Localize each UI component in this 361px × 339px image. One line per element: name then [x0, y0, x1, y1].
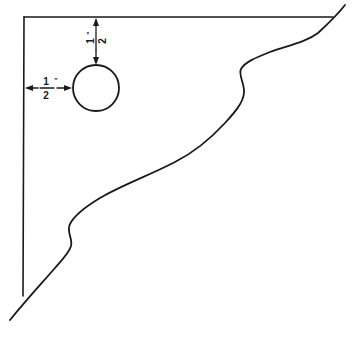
arrow-left-icon: [25, 85, 33, 91]
horizontal-dimension: 1 2 ": [25, 76, 72, 101]
arrow-down-icon: [93, 57, 99, 65]
left-edge: [23, 17, 24, 296]
vertical-dimension: 1 2 ": [85, 18, 108, 65]
horizontal-dim-numerator: 1: [43, 76, 49, 87]
arrow-up-icon: [93, 18, 99, 26]
hole-circle: [73, 65, 119, 111]
arrow-right-icon: [64, 85, 72, 91]
curved-diagonal-edge: [10, 5, 345, 320]
horizontal-dim-denominator: 2: [43, 90, 49, 101]
vertical-dim-denominator: 2: [97, 38, 108, 44]
bracket-diagram: 1 2 " 1 2 ": [0, 0, 361, 339]
vertical-dim-unit: ": [86, 31, 93, 34]
horizontal-dim-unit: ": [54, 77, 57, 84]
vertical-dim-numerator: 1: [85, 38, 96, 44]
